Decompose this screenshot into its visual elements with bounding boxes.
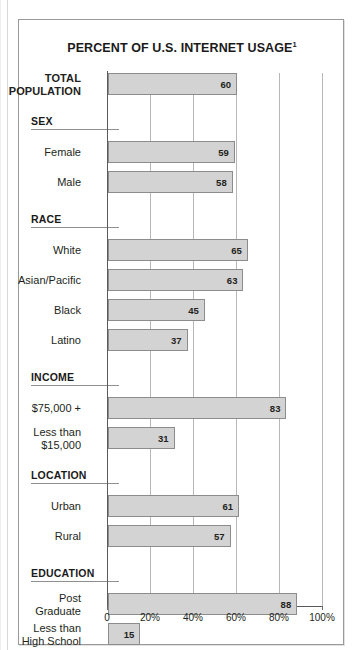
chart-title: PERCENT OF U.S. INTERNET USAGE1	[19, 41, 345, 55]
x-tick-100	[322, 606, 323, 610]
bar-row: 58	[107, 171, 322, 193]
section-underline	[31, 581, 119, 582]
bar-category-label: Rural	[0, 530, 81, 543]
section-title: SEX	[31, 115, 57, 127]
bar-category-label: $75,000 +	[0, 402, 81, 415]
bar-value-label: 57	[214, 531, 225, 542]
bar-value-label: 63	[227, 275, 238, 286]
bar-value-label: 45	[188, 305, 199, 316]
bar-row: 63	[107, 269, 322, 291]
x-tick-label-5: 100%	[309, 612, 335, 623]
bar-category-label: PostGraduate	[0, 592, 81, 617]
bar: 83	[108, 397, 286, 419]
bar: 31	[108, 427, 175, 449]
bar-value-label: 58	[216, 177, 227, 188]
bar-value-label: 59	[218, 147, 229, 158]
bar-category-label: Less than$15,000	[0, 426, 81, 451]
bar-category-label: TOTALPOPULATION	[0, 72, 81, 97]
bar-row: 37	[107, 329, 322, 351]
bar: 15	[108, 623, 140, 645]
bar-category-label: Female	[0, 146, 81, 159]
bar-value-label: 60	[220, 79, 231, 90]
bar: 60	[108, 73, 237, 95]
bar-value-label: 83	[270, 403, 281, 414]
bar-value-label: 88	[281, 599, 292, 610]
x-tick-label-2: 40%	[183, 612, 203, 623]
bar: 57	[108, 525, 231, 547]
bar-row: 15	[107, 623, 322, 645]
bar-value-label: 37	[171, 335, 182, 346]
bar: 65	[108, 239, 248, 261]
bar: 45	[108, 299, 205, 321]
bar: 58	[108, 171, 233, 193]
bar-row: 45	[107, 299, 322, 321]
chart-title-text: PERCENT OF U.S. INTERNET USAGE	[67, 41, 292, 55]
chart-figure-frame: PERCENT OF U.S. INTERNET USAGE1 SEXRACEI…	[18, 19, 344, 645]
gridline-100	[322, 73, 323, 606]
chart-plot-area: 60TOTALPOPULATION59Female58Male65White63…	[107, 73, 322, 606]
bar-value-label: 31	[158, 433, 169, 444]
bar-value-label: 15	[124, 629, 135, 640]
page-edge-inner	[7, 0, 8, 650]
page-edge-outer	[0, 0, 1, 650]
bar-row: 31	[107, 427, 322, 449]
bar-row: 59	[107, 141, 322, 163]
section-title: RACE	[31, 213, 66, 225]
bar-category-label: White	[0, 244, 81, 257]
bar-value-label: 65	[231, 245, 242, 256]
section-title: LOCATION	[31, 469, 91, 481]
bar-category-label: Urban	[0, 500, 81, 513]
bar-row: 60	[107, 73, 322, 95]
bar-category-label: Asian/Pacific	[0, 274, 81, 287]
chart-title-footnote-marker: 1	[292, 40, 296, 49]
section-underline	[31, 483, 119, 484]
section-underline	[31, 129, 119, 130]
section-underline	[31, 385, 119, 386]
bar-category-label: Less thanHigh School	[0, 622, 81, 647]
bar: 61	[108, 495, 239, 517]
bar: 59	[108, 141, 235, 163]
bar-row: 61	[107, 495, 322, 517]
bar-category-label: Black	[0, 304, 81, 317]
x-tick-label-4: 80%	[269, 612, 289, 623]
bar-row: 57	[107, 525, 322, 547]
bar: 63	[108, 269, 243, 291]
section-title: EDUCATION	[31, 567, 98, 579]
x-tick-label-3: 60%	[226, 612, 246, 623]
bar-category-label: Male	[0, 176, 81, 189]
x-tick-label-0: 0	[104, 612, 110, 623]
bar-row: 65	[107, 239, 322, 261]
bar-category-label: Latino	[0, 334, 81, 347]
bar: 37	[108, 329, 188, 351]
x-tick-label-1: 20%	[140, 612, 160, 623]
section-underline	[31, 227, 119, 228]
bar-row: 83	[107, 397, 322, 419]
section-title: INCOME	[31, 371, 78, 383]
bar-value-label: 61	[223, 501, 234, 512]
